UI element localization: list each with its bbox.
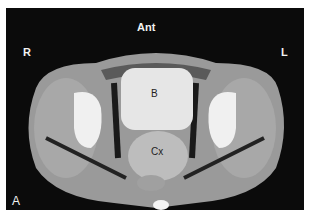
label-left: L (281, 46, 288, 58)
label-bladder: B (151, 88, 158, 99)
label-panel: A (12, 194, 20, 208)
label-anterior: Ant (137, 21, 155, 33)
pelvis-anatomy (6, 8, 304, 210)
label-cervix: Cx (151, 146, 163, 157)
ct-scan-image: Ant R L B Cx A (6, 8, 304, 210)
label-right: R (23, 46, 31, 58)
